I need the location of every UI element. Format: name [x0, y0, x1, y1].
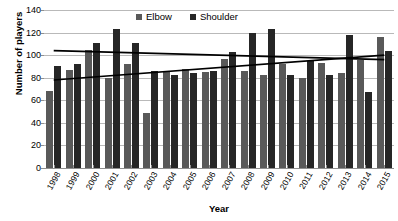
bar-group	[102, 10, 121, 168]
bar-elbow-1999	[66, 70, 73, 168]
x-tickmark-2005	[190, 165, 191, 168]
bar-shoulder-1998	[54, 66, 61, 168]
x-tick-label-2010: 2010	[278, 170, 296, 191]
x-tick-label-2012: 2012	[316, 170, 334, 191]
x-tickmark-2011	[306, 165, 307, 168]
bar-group	[336, 10, 355, 168]
x-tick-label-2000: 2000	[83, 170, 101, 191]
bar-elbow-2005	[182, 69, 189, 168]
y-axis-title: Number of players	[13, 0, 24, 114]
bar-shoulder-2002	[132, 43, 139, 168]
x-tick-cell: 2000	[83, 168, 102, 204]
y-tick-label-40: 40	[31, 118, 41, 128]
x-tick-cell: 2007	[219, 168, 238, 204]
x-tickmark-1998	[54, 165, 55, 168]
x-tickmark-2015	[384, 165, 385, 168]
y-tick-label-60: 60	[31, 95, 41, 105]
x-tickmark-2007	[229, 165, 230, 168]
x-tickmark-2001	[112, 165, 113, 168]
y-tick-label-20: 20	[31, 140, 41, 150]
bar-group	[238, 10, 257, 168]
bar-elbow-2013	[338, 73, 345, 168]
x-tickmark-2004	[170, 165, 171, 168]
bar-group	[219, 10, 238, 168]
x-axis-tick-labels: 1998199920002001200220032004200520062007…	[44, 168, 394, 204]
bar-shoulder-2005	[190, 73, 197, 168]
bar-groups	[44, 10, 394, 168]
x-tickmark-2009	[268, 165, 269, 168]
x-tick-label-2009: 2009	[258, 170, 276, 191]
y-tick-label-120: 120	[26, 28, 41, 38]
bar-group	[83, 10, 102, 168]
x-axis-title: Year	[44, 203, 394, 214]
x-tick-cell: 2006	[200, 168, 219, 204]
x-tick-label-2015: 2015	[375, 170, 393, 191]
x-tickmark-2006	[209, 165, 210, 168]
x-tick-label-2007: 2007	[219, 170, 237, 191]
x-tick-label-2001: 2001	[103, 170, 121, 191]
x-tick-label-2008: 2008	[239, 170, 257, 191]
bar-group	[141, 10, 160, 168]
x-tick-label-2011: 2011	[297, 170, 315, 191]
x-tick-cell: 2005	[180, 168, 199, 204]
x-tick-cell: 1998	[44, 168, 63, 204]
bar-elbow-2010	[279, 64, 286, 168]
x-tick-cell: 2009	[258, 168, 277, 204]
x-tick-cell: 2015	[374, 168, 393, 204]
bar-elbow-2001	[105, 78, 112, 168]
x-tickmark-2014	[365, 165, 366, 168]
x-tickmark-2008	[248, 165, 249, 168]
x-tick-label-2003: 2003	[141, 170, 159, 191]
bar-shoulder-2013	[346, 35, 353, 168]
bar-shoulder-2010	[287, 75, 294, 168]
bar-elbow-2003	[143, 113, 150, 168]
bar-shoulder-2011	[307, 61, 314, 168]
x-tickmark-1999	[73, 165, 74, 168]
x-tick-cell: 2003	[141, 168, 160, 204]
x-tick-label-2006: 2006	[200, 170, 218, 191]
bar-group	[161, 10, 180, 168]
bar-shoulder-2014	[365, 92, 372, 168]
bar-elbow-2014	[357, 60, 364, 168]
bar-shoulder-2012	[326, 75, 333, 168]
bar-group	[297, 10, 316, 168]
bar-shoulder-2001	[113, 29, 120, 168]
x-tick-cell: 2011	[297, 168, 316, 204]
bar-shoulder-2015	[385, 51, 392, 168]
bar-group	[355, 10, 374, 168]
bar-group	[277, 10, 296, 168]
x-tick-cell: 2010	[277, 168, 296, 204]
bar-group	[44, 10, 63, 168]
x-tick-cell: 2014	[355, 168, 374, 204]
y-tick-label-100: 100	[26, 50, 41, 60]
bar-elbow-1998	[46, 91, 53, 168]
x-tick-cell: 2001	[102, 168, 121, 204]
x-tickmark-2013	[345, 165, 346, 168]
bar-shoulder-2004	[171, 75, 178, 168]
x-tick-cell: 2013	[336, 168, 355, 204]
x-tick-cell: 2002	[122, 168, 141, 204]
bar-elbow-2011	[299, 78, 306, 168]
bar-group	[63, 10, 82, 168]
bar-elbow-2004	[163, 72, 170, 168]
bar-elbow-2015	[377, 37, 384, 168]
plot-area: 020406080100120140	[44, 10, 394, 168]
y-tick-label-140: 140	[26, 5, 41, 15]
bar-shoulder-2003	[151, 71, 158, 168]
bar-elbow-2007	[221, 59, 228, 168]
x-tickmark-2000	[93, 165, 94, 168]
x-tick-cell: 1999	[63, 168, 82, 204]
x-tickmark-2002	[131, 165, 132, 168]
bar-group	[180, 10, 199, 168]
bar-shoulder-2000	[93, 43, 100, 168]
bar-group	[316, 10, 335, 168]
x-tickmark-2012	[326, 165, 327, 168]
x-tick-label-2004: 2004	[161, 170, 179, 191]
bar-group	[200, 10, 219, 168]
bar-shoulder-2008	[249, 33, 256, 168]
bar-group	[258, 10, 277, 168]
y-tick-label-0: 0	[36, 163, 41, 173]
x-tick-label-2013: 2013	[336, 170, 354, 191]
x-tick-label-1999: 1999	[64, 170, 82, 191]
bar-elbow-2000	[85, 50, 92, 169]
